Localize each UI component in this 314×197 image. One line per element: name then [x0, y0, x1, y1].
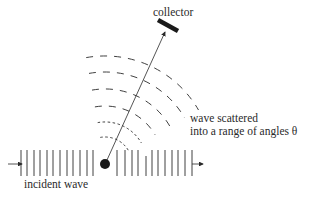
scattered-wavefronts — [86, 56, 198, 151]
collector-icon — [158, 20, 178, 31]
transmitted-wavefronts — [117, 150, 192, 176]
scattered-wave-label-line1: wave scattered — [190, 112, 258, 124]
scattering-diagram: collector wave scattered into a range of… — [0, 0, 314, 197]
scatterer-dot-icon — [100, 159, 110, 169]
scattering-direction-arrow-icon — [107, 32, 165, 160]
scattered-wavefront-arc — [86, 56, 198, 110]
incident-wavefronts — [21, 150, 93, 176]
collector-label: collector — [153, 6, 193, 18]
diagram-canvas — [0, 0, 314, 197]
incident-wave-label: incident wave — [24, 178, 88, 190]
scattered-wave-label-line2: into a range of angles θ — [190, 125, 297, 137]
